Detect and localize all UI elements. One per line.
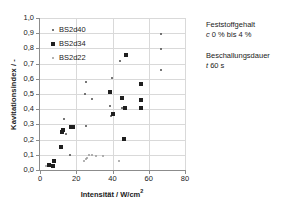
x-axis-title-exponent: 2 [140, 188, 143, 194]
y-axis-tick-label: 0,8 [24, 45, 34, 53]
annotation-block-2: Beschallungsdauert 60 s [206, 51, 284, 71]
y-axis-tick-label: 0,3 [24, 121, 34, 129]
data-point-bs2d34 [139, 106, 143, 110]
x-axis-title-text: Intensität / W/cm [81, 190, 141, 199]
x-axis-tick-label: 40 [108, 175, 116, 183]
x-axis-tick-label: 60 [145, 175, 153, 183]
y-axis-tick-label: 0,7 [24, 60, 34, 68]
y-axis-tick [36, 140, 40, 141]
y-axis-tick [36, 18, 40, 19]
data-point-bs2d40 [109, 105, 111, 107]
y-axis-tick-label: 0,6 [24, 75, 34, 83]
x-axis-tick-label: 20 [72, 175, 80, 183]
data-point-bs2d40 [84, 93, 86, 95]
y-axis-tick [36, 94, 40, 95]
marker-glyph-icon [52, 57, 54, 59]
data-point-bs2d40 [160, 69, 162, 71]
data-point-bs2d22 [91, 154, 93, 156]
data-point-bs2d40 [160, 48, 162, 50]
data-point-bs2d34 [139, 82, 143, 86]
data-point-bs2d34 [122, 137, 126, 141]
y-axis-tick-label: 0,5 [24, 90, 34, 98]
y-axis-tick-label: 0,4 [24, 105, 34, 113]
data-point-bs2d40 [160, 33, 162, 35]
data-point-bs2d40 [65, 133, 67, 135]
data-point-bs2d34 [52, 159, 56, 163]
chart-legend: BS2d40BS2d34BS2d22 [48, 25, 86, 62]
legend-marker-icon [48, 57, 57, 59]
gridline-vertical [113, 18, 114, 170]
chart-figure: Kavitationsindex / - 0,00,10,20,30,40,50… [0, 0, 287, 212]
gridline-vertical [149, 18, 150, 170]
data-point-bs2d34 [139, 98, 143, 102]
legend-item-label: BS2d34 [59, 40, 86, 48]
data-point-bs2d34 [108, 90, 112, 94]
x-axis-title: Intensität / W/cm2 [39, 188, 185, 199]
y-axis-tick [36, 48, 40, 49]
chart-annotations: Feststoffgehaltc 0 % bis 4 %Beschallungs… [206, 20, 284, 83]
y-axis-tick [36, 124, 40, 125]
data-point-bs2d40 [111, 77, 113, 79]
marker-glyph-icon [52, 29, 54, 31]
legend-item-label: BS2d40 [59, 26, 86, 34]
data-point-bs2d22 [85, 158, 87, 160]
data-point-bs2d22 [118, 160, 120, 162]
data-point-bs2d22 [45, 165, 47, 167]
data-point-bs2d40 [85, 125, 87, 127]
data-point-bs2d40 [91, 98, 93, 100]
annotation-value: t 60 s [206, 61, 284, 71]
data-point-bs2d22 [95, 155, 97, 157]
y-axis-tick [36, 79, 40, 80]
data-point-bs2d40 [69, 154, 71, 156]
y-axis-tick [36, 155, 40, 156]
data-point-bs2d34 [59, 145, 63, 149]
legend-marker-icon [48, 29, 57, 31]
y-axis-tick [36, 33, 40, 34]
data-point-bs2d40 [63, 118, 65, 120]
y-axis-tick-label: 0,1 [24, 151, 34, 159]
gridline-vertical [185, 18, 186, 170]
data-point-bs2d34 [47, 163, 51, 167]
y-axis-tick [36, 109, 40, 110]
annotation-value: c 0 % bis 4 % [206, 30, 284, 40]
legend-item-bs2d34: BS2d34 [48, 39, 86, 48]
y-axis-tick-label: 0,2 [24, 136, 34, 144]
legend-item-bs2d22: BS2d22 [48, 53, 86, 62]
data-point-bs2d22 [88, 154, 90, 156]
y-axis-tick-label: 0,0 [24, 166, 34, 174]
data-point-bs2d22 [102, 155, 104, 157]
marker-glyph-icon [51, 42, 55, 46]
x-axis-tick-label: 0 [38, 175, 42, 183]
annotation-block-1: Feststoffgehaltc 0 % bis 4 % [206, 20, 284, 40]
data-point-bs2d34 [123, 106, 127, 110]
data-point-bs2d34 [124, 53, 128, 57]
data-point-bs2d34 [120, 96, 124, 100]
annotation-title: Beschallungsdauer [206, 51, 284, 61]
data-point-bs2d34 [60, 130, 64, 134]
data-point-bs2d34 [111, 112, 115, 116]
y-axis-title-text: Kavitationsindex / - [9, 59, 18, 130]
data-point-bs2d34 [51, 164, 55, 168]
y-axis-title: Kavitationsindex / - [8, 18, 19, 171]
data-point-bs2d40 [119, 60, 121, 62]
data-point-bs2d34 [71, 125, 75, 129]
data-point-bs2d40 [85, 81, 87, 83]
annotation-symbol: c [206, 30, 210, 39]
legend-item-label: BS2d22 [59, 54, 86, 62]
y-axis-tick [36, 64, 40, 65]
y-axis-tick-label: 1,0 [24, 14, 34, 22]
legend-marker-icon [48, 42, 57, 46]
annotation-title: Feststoffgehalt [206, 20, 284, 30]
y-axis-tick-label: 0,9 [24, 29, 34, 37]
x-axis-tick-label: 80 [181, 175, 189, 183]
annotation-symbol: t [206, 61, 208, 70]
legend-item-bs2d40: BS2d40 [48, 25, 86, 34]
